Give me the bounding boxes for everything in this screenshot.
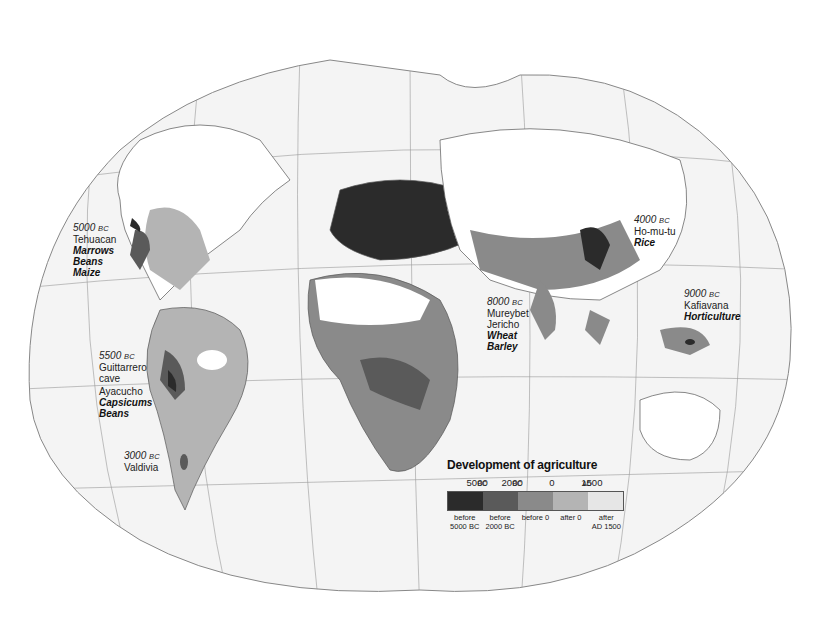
legend-ticks: 5000 BC 2000 BC 0 AD1500 [447, 477, 627, 489]
site-label-homutu: 4000 BC Ho-mu-tu Rice [634, 214, 676, 248]
legend-swatch-before-5000bc [448, 492, 483, 510]
site-label-guittarrero: 5500 BC Guittarrero cave [99, 350, 147, 384]
legend-category-labels: before5000 BC before2000 BC before 0 aft… [447, 513, 624, 531]
legend: Development of agriculture 5000 BC 2000 … [447, 458, 627, 531]
legend-swatch-before-2000bc [483, 492, 518, 510]
legend-swatch-after-ad1500 [588, 492, 623, 510]
site-label-ayacucho: Ayacucho Capsicums Beans [99, 386, 152, 419]
site-label-valdivia: 3000 BC Valdivia [124, 450, 160, 473]
site-label-mureybet: 8000 BC Mureybet Jericho Wheat Barley [487, 296, 529, 352]
site-label-kafiavana: 9000 BC Kafiavana Horticulture [684, 288, 741, 322]
legend-color-bar [447, 491, 624, 511]
legend-title: Development of agriculture [447, 458, 627, 472]
site-label-tehuacan: 5000 BC Tehuacan Marrows Beans Maize [73, 222, 116, 278]
legend-swatch-before-0 [518, 492, 553, 510]
legend-swatch-after-0 [553, 492, 588, 510]
